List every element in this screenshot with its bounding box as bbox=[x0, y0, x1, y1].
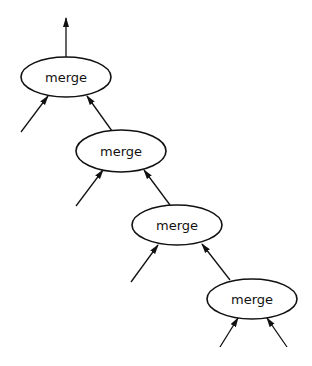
input-arrow-merge3 bbox=[131, 245, 158, 282]
merge-node-label: merge bbox=[45, 70, 87, 85]
nodes: mergemergemergemerge bbox=[21, 57, 297, 319]
merge-node: merge bbox=[207, 279, 297, 319]
input-arrow-merge4 bbox=[267, 318, 287, 347]
input-arrow-merge4 bbox=[220, 318, 238, 347]
merge-node: merge bbox=[21, 57, 111, 97]
input-arrow-merge2 bbox=[76, 170, 103, 206]
merge-node: merge bbox=[132, 205, 222, 245]
input-arrow-merge1 bbox=[21, 96, 48, 132]
input-arrow-merge2 bbox=[144, 170, 170, 205]
input-arrow-merge1 bbox=[87, 96, 112, 131]
merge-node-label: merge bbox=[156, 218, 198, 233]
merge-node-label: merge bbox=[100, 144, 142, 159]
merge-node: merge bbox=[76, 130, 166, 172]
merge-node-label: merge bbox=[231, 292, 273, 307]
merge-tree-diagram: mergemergemergemerge bbox=[0, 0, 312, 366]
input-arrow-merge3 bbox=[202, 244, 230, 280]
